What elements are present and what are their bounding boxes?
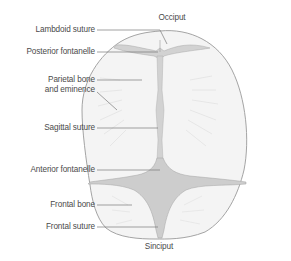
label-frontal-bone: Frontal bone	[50, 200, 95, 210]
fetal-skull-diagram: Occiput Lambdoid suture Posterior fontan…	[0, 0, 291, 261]
label-anterior-fontanelle: Anterior fontanelle	[30, 165, 95, 175]
label-parietal-bone: Parietal bone	[48, 75, 95, 85]
label-lambdoid-suture: Lambdoid suture	[36, 25, 96, 35]
label-sagittal-suture: Sagittal suture	[44, 123, 95, 133]
label-posterior-fontanelle: Posterior fontanelle	[26, 47, 95, 57]
label-parietal-eminence: and eminence	[45, 85, 95, 95]
label-occiput: Occiput	[150, 13, 194, 23]
label-frontal-suture: Frontal suture	[46, 222, 95, 232]
label-sinciput: Sinciput	[137, 242, 181, 252]
